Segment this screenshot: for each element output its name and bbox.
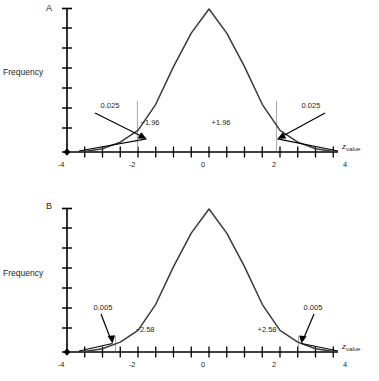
distribution-curve-a — [85, 9, 334, 151]
panel-a: A Frequency zvalue 0.025 0.025 −1.96 +1.… — [0, 0, 379, 190]
distribution-curve-b — [85, 209, 334, 351]
plot-area-a — [0, 0, 379, 190]
origin-marker-a — [64, 148, 71, 156]
origin-marker-b — [64, 348, 71, 356]
tail-arrow-right-a — [278, 113, 339, 151]
panel-b: B Frequency zvalue 0.005 0.005 −2.58 +2.… — [0, 190, 379, 380]
plot-area-b — [0, 190, 379, 381]
figure-normal-distribution-critical-values: A Frequency zvalue 0.025 0.025 −1.96 +1.… — [0, 0, 379, 381]
